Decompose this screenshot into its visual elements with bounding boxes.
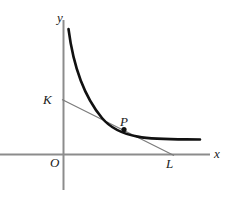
point-label-l: L (166, 157, 173, 170)
origin-label: O (50, 156, 59, 169)
y-axis-label: y (57, 11, 63, 24)
x-axis-label: x (214, 147, 220, 160)
geometry-figure (0, 0, 231, 198)
hyperbola-curve (69, 29, 201, 140)
figure-container: y x O K P L (0, 0, 231, 198)
point-label-k: K (43, 93, 52, 106)
point-label-p: P (120, 115, 128, 128)
tangent-line-KL (62, 100, 174, 156)
